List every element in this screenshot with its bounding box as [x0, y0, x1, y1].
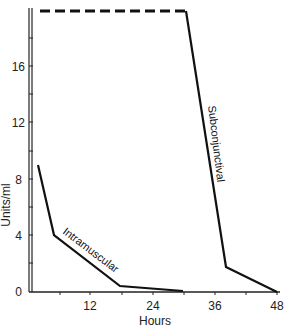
y-axis-title: Units/ml — [0, 183, 13, 226]
y-tick-8: 8 — [15, 173, 22, 187]
intramuscular-label: Intramuscular — [61, 225, 122, 275]
x-axis-title: Hours — [139, 314, 171, 328]
subconjunctival-line — [186, 11, 277, 292]
x-tick-12: 12 — [83, 299, 97, 313]
x-tick-36: 36 — [208, 299, 222, 313]
x-tick-24: 24 — [146, 299, 160, 313]
y-tick-0: 0 — [15, 285, 22, 299]
y-tick-4: 4 — [15, 229, 22, 243]
y-tick-16: 16 — [12, 60, 26, 74]
intramuscular-line — [38, 165, 183, 291]
subconjunctival-label: Subconjunctival — [206, 105, 227, 183]
y-tick-12: 12 — [12, 116, 26, 130]
x-tick-48: 48 — [270, 299, 284, 313]
chart: 0 4 8 12 16 12 24 36 48 Hours Units/ml S… — [0, 0, 292, 334]
